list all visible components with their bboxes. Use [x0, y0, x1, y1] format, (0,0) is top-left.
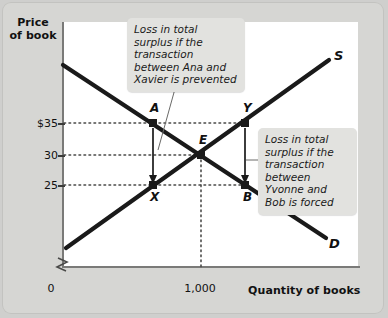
point-marker-b — [241, 181, 249, 189]
point-marker-y — [241, 119, 249, 127]
point-marker-x — [149, 181, 157, 189]
point-marker-a — [149, 119, 157, 127]
callout-left: Loss in total surplus if the transaction… — [127, 18, 245, 92]
supply-curve-label: S — [334, 48, 343, 63]
point-label-e: E — [199, 133, 207, 147]
point-label-b: B — [243, 190, 252, 204]
callout-right: Loss in total surplus if the transaction… — [258, 128, 357, 215]
demand-curve-label: D — [329, 236, 340, 251]
point-label-a: A — [150, 101, 159, 115]
point-label-y: Y — [243, 101, 252, 115]
supply-demand-figure: Price of book Quantity of books $35 30 2… — [0, 0, 388, 318]
point-label-x: X — [150, 190, 159, 204]
point-marker-e — [197, 151, 205, 159]
y-axis-break-icon — [57, 258, 67, 271]
